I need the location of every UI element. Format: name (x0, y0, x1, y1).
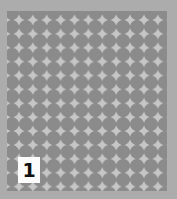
panel-number-label: 1 (18, 157, 40, 183)
